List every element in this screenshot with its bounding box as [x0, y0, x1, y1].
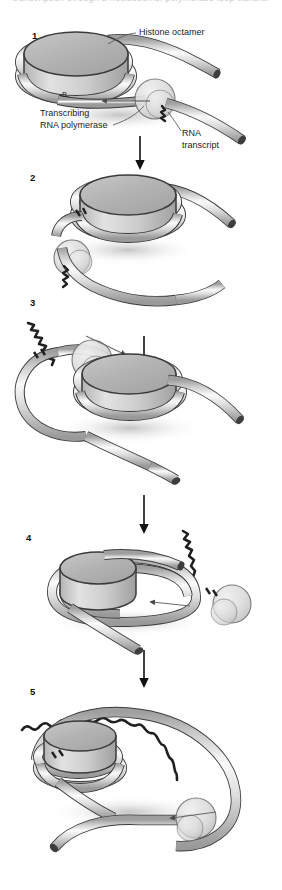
nucleosome-transcription-figure: [0, 0, 282, 890]
step-number-2: 2: [30, 172, 35, 183]
label-rna-transcript: transcript: [182, 140, 219, 152]
label-b-marker: B: [62, 90, 67, 99]
panel-step-3: [20, 323, 246, 486]
panel-step-5: [22, 712, 236, 853]
histone-octamer-core-4: [60, 552, 136, 610]
panel-step-2: [54, 175, 237, 301]
step-number-3: 3: [30, 297, 35, 308]
loop-direction-arrow-4: [152, 602, 190, 606]
label-transcribing: Transcribing: [40, 108, 89, 120]
b-marker-band-4: [206, 588, 217, 596]
step-number-5: 5: [30, 686, 35, 697]
rna-polymerase-body-4: [211, 585, 251, 625]
label-rna: RNA: [182, 128, 201, 140]
panel-step-4: [48, 531, 251, 656]
step-number-1: 1: [32, 30, 37, 41]
label-histone-octamer: Histone octamer: [139, 27, 205, 39]
label-rna-polymerase: RNA polymerase: [40, 120, 108, 132]
step-number-4: 4: [26, 532, 31, 543]
histone-octamer-core-5: [44, 721, 116, 773]
